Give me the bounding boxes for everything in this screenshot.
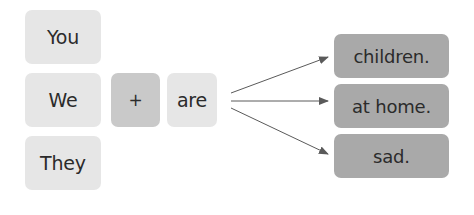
complement-at-home: at home. <box>334 84 449 128</box>
complement-children: children. <box>334 34 449 78</box>
complement-label: sad. <box>373 146 410 167</box>
arrow-to-children <box>231 57 328 93</box>
complement-label: at home. <box>352 96 431 117</box>
complement-label: children. <box>353 46 429 67</box>
complement-sad: sad. <box>334 134 449 178</box>
arrow-to-sad <box>231 108 328 154</box>
